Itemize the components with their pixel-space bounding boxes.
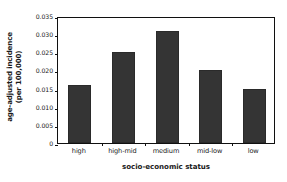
y-axis-tick-label: 0.035 [20,14,53,20]
y-axis-tick-mark [55,91,58,92]
bar-chart-figure: age-adjusted incidence (per 100,000) 00.… [0,0,287,182]
x-axis-tick-label: high [72,147,86,156]
y-axis-tick-labels: 00.0050.0100.0150.0200.0250.0300.035 [20,17,53,144]
bars-layer [58,18,274,143]
y-axis-tick-mark [55,127,58,128]
x-axis-tick-labels: highhigh-midmediummid-lowlow [57,147,275,159]
bar [68,85,91,143]
y-axis-tick-mark [55,109,58,110]
x-axis-tick-label: high-mid [108,147,136,156]
x-axis-tick-label: low [248,147,259,156]
x-axis-tick-mark [189,143,190,146]
x-axis-tick-mark [232,143,233,146]
y-axis-title-line-1: age-adjusted incidence [5,32,15,122]
bar [199,70,222,143]
y-axis-tick-label: 0.020 [20,68,53,74]
x-axis-tick-mark [102,143,103,146]
y-axis-tick-label: 0.005 [20,123,53,129]
y-axis-tick-label: 0.015 [20,86,53,92]
y-axis-tick-label: 0.025 [20,50,53,56]
y-axis-tick-label: 0 [20,141,53,147]
x-axis-tick-mark [145,143,146,146]
bar [243,89,266,143]
y-axis-tick-mark [55,18,58,19]
y-axis-tick-mark [55,145,58,146]
bar [156,31,179,143]
y-axis-tick-mark [55,72,58,73]
y-axis-tick-mark [55,54,58,55]
y-axis-tick-label: 0.030 [20,32,53,38]
x-axis-tick-label: medium [153,147,180,156]
plot-area [57,17,275,144]
x-axis-tick-label: mid-low [197,147,222,156]
x-axis-title: socio-economic status [57,162,275,171]
y-axis-tick-mark [55,36,58,37]
y-axis-tick-label: 0.010 [20,105,53,111]
bar [112,52,135,143]
